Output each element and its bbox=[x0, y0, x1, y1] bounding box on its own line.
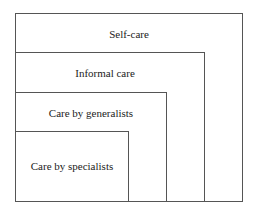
specialists-care-label: Care by specialists bbox=[31, 160, 113, 172]
self-care-label: Self-care bbox=[109, 28, 149, 40]
informal-care-label: Informal care bbox=[75, 67, 135, 79]
generalists-care-label: Care by generalists bbox=[49, 107, 133, 119]
